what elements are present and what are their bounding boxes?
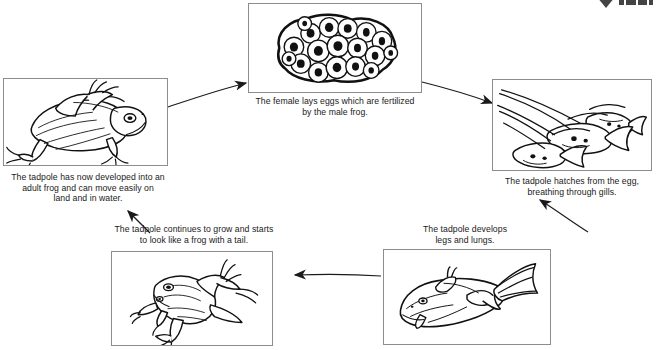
caption-tadpole-legs-lungs: The tadpole develops legs and lungs. xyxy=(390,224,540,245)
arrow-tadpole-to-legs xyxy=(540,200,588,232)
tadpoles-illustration xyxy=(493,80,651,170)
publisher-watermark-icon xyxy=(595,0,655,12)
caption-tadpole-gills: The tadpole hatches from the egg, breath… xyxy=(490,176,654,197)
caption-eggs: The female lays eggs which are fertilize… xyxy=(236,96,434,117)
frog-eggs-illustration xyxy=(249,4,421,92)
caption-adult-frog: The tadpole has now developed into an ad… xyxy=(0,172,176,204)
arrow-legs-to-froglet xyxy=(295,274,381,276)
frog-life-cycle-diagram: The female lays eggs which are fertilize… xyxy=(0,0,657,350)
stage-box-froglet xyxy=(111,251,273,346)
stage-box-adult-frog xyxy=(3,78,168,166)
tadpole-with-legs-illustration xyxy=(384,250,550,344)
stage-box-tadpole-legs-lungs xyxy=(383,249,551,345)
stage-box-eggs xyxy=(248,3,422,93)
adult-frog-illustration xyxy=(4,79,167,165)
stage-box-tadpole-gills xyxy=(492,79,652,171)
caption-froglet: The tadpole continues to grow and starts… xyxy=(96,224,292,245)
froglet-illustration xyxy=(112,252,272,345)
arrow-adult-to-eggs xyxy=(168,83,246,107)
